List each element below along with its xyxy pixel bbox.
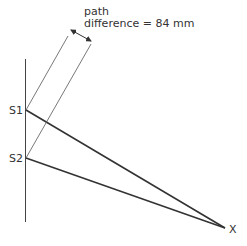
label-s1: S1 — [9, 104, 23, 117]
label-x: X — [229, 223, 237, 236]
annotation-line2: difference = 84 mm — [84, 17, 194, 30]
double-slit-diagram: path difference = 84 mm S1 S2 X — [0, 0, 247, 246]
construction-line-left — [26, 36, 68, 110]
path-difference-arrow — [71, 30, 91, 41]
construction-line-right — [26, 44, 91, 158]
label-s2: S2 — [9, 152, 23, 165]
